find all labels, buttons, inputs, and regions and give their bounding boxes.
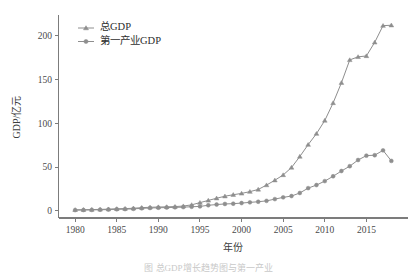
- data-point-marker: [372, 40, 377, 44]
- gdp-trend-figure: 0501001502001980198519901995200020052010…: [0, 0, 417, 273]
- x-tick-label: 2010: [315, 225, 334, 235]
- data-point-marker: [73, 208, 77, 212]
- y-tick-label: 200: [38, 31, 53, 41]
- y-tick-label: 50: [43, 162, 53, 172]
- x-tick-label: 1985: [107, 225, 126, 235]
- data-point-marker: [123, 207, 127, 211]
- data-point-marker: [256, 187, 261, 191]
- x-tick-label: 2000: [232, 225, 251, 235]
- x-tick-label: 1980: [66, 225, 85, 235]
- data-point-marker: [140, 206, 144, 210]
- data-point-marker: [331, 174, 335, 178]
- legend-entry-2: 第一产业GDP: [78, 34, 161, 46]
- data-point-marker: [181, 205, 185, 209]
- data-point-marker: [173, 205, 177, 209]
- data-point-marker: [356, 158, 360, 162]
- series-2: [73, 148, 393, 212]
- y-axis-title: GDP/亿元: [10, 96, 22, 139]
- data-point-marker: [339, 169, 343, 173]
- legend-label: 第一产业GDP: [100, 34, 161, 46]
- data-point-marker: [256, 200, 260, 204]
- y-tick-label: 100: [38, 119, 53, 129]
- data-point-marker: [264, 183, 269, 187]
- series-line: [75, 150, 391, 210]
- data-point-marker: [106, 208, 110, 212]
- data-point-marker: [165, 206, 169, 210]
- x-axis-title: 年份: [223, 241, 243, 253]
- data-point-marker: [290, 194, 294, 198]
- data-point-marker: [198, 204, 202, 208]
- data-point-marker: [82, 208, 86, 212]
- data-point-marker: [298, 191, 302, 195]
- series-1: [73, 23, 394, 211]
- data-point-marker: [339, 81, 344, 85]
- figure-caption: 图 总GDP增长趋势图与第一产业: [0, 263, 417, 273]
- data-point-marker: [223, 202, 227, 206]
- data-point-marker: [323, 179, 327, 183]
- data-point-marker: [206, 203, 210, 207]
- x-tick-label: 2015: [357, 225, 376, 235]
- x-tick-label: 1990: [149, 225, 168, 235]
- data-point-marker: [148, 206, 152, 210]
- legend-entry-1: 总GDP: [78, 20, 131, 32]
- y-tick-label: 0: [47, 206, 52, 216]
- data-point-marker: [215, 203, 219, 207]
- data-point-marker: [389, 159, 393, 163]
- data-point-marker: [84, 39, 88, 43]
- data-point-marker: [373, 153, 377, 157]
- data-point-marker: [240, 201, 244, 205]
- data-point-marker: [248, 200, 252, 204]
- data-point-marker: [265, 199, 269, 203]
- data-point-marker: [381, 148, 385, 152]
- data-point-marker: [322, 118, 327, 122]
- legend-label: 总GDP: [100, 20, 131, 32]
- data-point-marker: [364, 154, 368, 158]
- data-point-marker: [348, 164, 352, 168]
- data-point-marker: [231, 202, 235, 206]
- data-point-marker: [273, 197, 277, 201]
- x-tick-label: 1995: [190, 225, 209, 235]
- data-point-marker: [90, 208, 94, 212]
- x-tick-label: 2005: [274, 225, 293, 235]
- data-point-marker: [131, 207, 135, 211]
- data-point-marker: [306, 186, 310, 190]
- data-point-marker: [331, 101, 336, 105]
- data-point-marker: [190, 205, 194, 209]
- data-point-marker: [315, 183, 319, 187]
- y-tick-label: 150: [38, 75, 53, 85]
- gdp-line-chart: 0501001502001980198519901995200020052010…: [0, 0, 417, 273]
- series-line: [75, 25, 391, 210]
- data-point-marker: [98, 208, 102, 212]
- data-point-marker: [314, 132, 319, 136]
- data-point-marker: [115, 207, 119, 211]
- data-point-marker: [156, 206, 160, 210]
- data-point-marker: [281, 195, 285, 199]
